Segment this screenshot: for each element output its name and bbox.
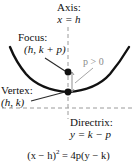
focus-label-value: (h, k + p) — [18, 44, 66, 56]
vertex-label-value: (h, k) — [1, 97, 33, 109]
focus-point — [65, 69, 72, 76]
focus-label-name: Focus: — [18, 31, 47, 43]
p-parameter-label: p > 0 — [83, 57, 104, 68]
vertex-label-name: Vertex: — [1, 84, 33, 96]
vertex-label: Vertex: (h, k) — [1, 85, 33, 108]
equation-rhs: 4p(y − k) — [71, 150, 110, 161]
directrix-label-name: Directrix: — [70, 116, 113, 128]
vertex-point — [65, 89, 72, 96]
axis-label-value: x = h — [57, 14, 81, 26]
equation-relation: = — [62, 150, 68, 161]
directrix-label-value: y = k − p — [70, 129, 113, 141]
parabola-diagram: Axis: x = h Focus: (h, k + p) Vertex: (h… — [0, 0, 137, 166]
equation-lhs-base: (x − h) — [27, 150, 56, 161]
axis-label-name: Axis: — [57, 1, 81, 13]
axis-label: Axis: x = h — [57, 2, 81, 25]
p-distance-arrow — [70, 72, 74, 92]
parabola-equation: (x − h)2 = 4p(y − k) — [0, 148, 137, 161]
directrix-label: Directrix: y = k − p — [70, 117, 113, 140]
vertex-leader-line — [31, 92, 65, 101]
focus-leader-line — [45, 58, 65, 71]
equation-lhs-exponent: 2 — [56, 148, 60, 156]
focus-label: Focus: (h, k + p) — [18, 32, 66, 55]
p-label-leader-line — [75, 68, 93, 83]
